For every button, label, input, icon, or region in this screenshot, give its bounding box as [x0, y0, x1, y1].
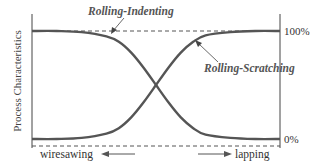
y-tick-0: 0% — [284, 133, 299, 145]
right-arrowhead-icon — [224, 151, 232, 157]
rolling-scratching-curve — [32, 31, 280, 139]
y-tick-100: 100% — [284, 25, 310, 37]
left-arrowhead-icon — [101, 151, 109, 157]
wiresawing-label: wiresawing — [40, 148, 93, 161]
annotation-arrow-scratching — [199, 44, 218, 62]
arrowhead-indenting-icon — [111, 27, 117, 34]
annotation-rolling-indenting: Rolling-Indenting — [87, 5, 174, 18]
annotation-rolling-scratching: Rolling-Scratching — [203, 62, 295, 75]
process-characteristics-diagram: 100% 0% Process Characteristics Rolling-… — [0, 0, 324, 163]
y-axis-title: Process Characteristics — [11, 30, 23, 132]
lapping-label: lapping — [235, 148, 270, 161]
